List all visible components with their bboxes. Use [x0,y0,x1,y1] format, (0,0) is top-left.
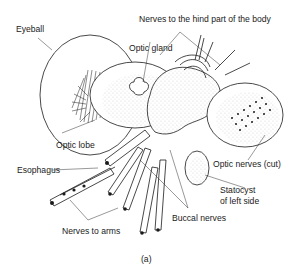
label-optic-nerves-cut: Optic nerves (cut) [213,159,281,169]
label-statocyst-1: Statocyst [220,185,255,195]
label-esophagus: Esophagus [17,165,60,175]
label-statocyst-2: of left side [220,196,259,206]
label-nerves-hind: Nerves to the hind part of the body [139,14,271,24]
label-optic-lobe: Optic lobe [56,140,95,150]
octopus-brain-illustration [0,0,298,273]
label-optic-gland: Optic gland [129,43,172,53]
figure-caption: (a) [141,254,152,264]
label-nerves-to-arms: Nerves to arms [62,226,120,236]
label-buccal-nerves: Buccal nerves [172,213,226,223]
label-eyeball: Eyeball [16,24,44,34]
